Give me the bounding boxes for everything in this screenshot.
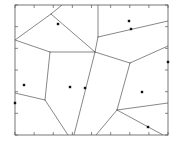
scatter-point <box>69 86 71 88</box>
voronoi-edge <box>45 52 50 100</box>
voronoi-edge <box>96 110 117 135</box>
voronoi-edge <box>117 110 163 135</box>
scatter-point <box>167 61 169 63</box>
scatter-point <box>130 28 132 30</box>
scatter-point <box>14 102 16 104</box>
scatter-point <box>147 126 149 128</box>
voronoi-edge <box>15 93 45 100</box>
voronoi-edge <box>51 5 62 14</box>
scatter-point-group <box>14 20 169 128</box>
voronoi-figure <box>0 0 182 147</box>
voronoi-edge <box>98 21 168 37</box>
voronoi-edge <box>95 52 130 63</box>
voronoi-edge <box>45 100 68 135</box>
scatter-point <box>57 23 59 25</box>
plot-canvas <box>0 0 182 147</box>
voronoi-edge <box>15 14 51 40</box>
scatter-point <box>84 87 86 89</box>
voronoi-edge-group <box>15 5 168 135</box>
scatter-point <box>128 20 130 22</box>
voronoi-edge <box>117 103 168 110</box>
axes-tick-group <box>15 5 168 135</box>
voronoi-edge <box>51 14 95 52</box>
voronoi-edge <box>117 63 130 110</box>
scatter-point <box>23 84 25 86</box>
voronoi-edge <box>15 40 50 52</box>
plot-border <box>15 5 168 135</box>
scatter-point <box>141 91 143 93</box>
axes-frame <box>15 5 168 135</box>
voronoi-edge <box>130 46 168 63</box>
voronoi-edge <box>74 52 95 135</box>
voronoi-edge <box>95 37 98 52</box>
